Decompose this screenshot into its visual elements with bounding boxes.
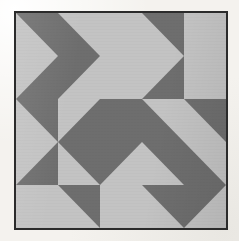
quilt-patch-base: [16, 185, 58, 228]
quilt-cell: [16, 142, 58, 185]
quilt-cell: [142, 99, 184, 142]
quilt-cell: [16, 13, 58, 56]
quilt-cell: [16, 185, 58, 228]
quilt-grid: [16, 13, 226, 228]
quilt-patch-base: [100, 99, 142, 142]
quilt-cell: [142, 142, 184, 185]
quilt-cell: [184, 99, 226, 142]
quilt-cell: [58, 13, 100, 56]
quilt-cell: [184, 142, 226, 185]
quilt-cell: [58, 56, 100, 99]
quilt-cell: [142, 56, 184, 99]
quilt-patch-base: [100, 185, 142, 228]
quilt-cell: [100, 56, 142, 99]
quilt-cell: [184, 56, 226, 99]
quilt-cell: [16, 99, 58, 142]
quilt-cell: [16, 56, 58, 99]
quilt-cell: [100, 142, 142, 185]
quilt-cell: [100, 99, 142, 142]
quilt-cell: [58, 142, 100, 185]
quilt-cell: [58, 99, 100, 142]
quilt-patch-base: [184, 13, 226, 56]
quilt-cell: [184, 13, 226, 56]
quilt-frame: [14, 11, 228, 230]
quilt-patch-base: [100, 13, 142, 56]
quilt-patch-base: [100, 56, 142, 99]
image-canvas: [0, 0, 239, 241]
quilt-cell: [142, 185, 184, 228]
quilt-cell: [142, 13, 184, 56]
quilt-patch-base: [184, 56, 226, 99]
quilt-cell: [100, 185, 142, 228]
quilt-cell: [58, 185, 100, 228]
quilt-cell: [184, 185, 226, 228]
quilt-cell: [100, 13, 142, 56]
